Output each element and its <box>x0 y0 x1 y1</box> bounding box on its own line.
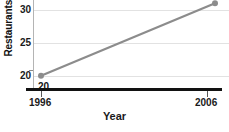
plot-area <box>33 0 229 89</box>
x-axis-spine <box>26 88 222 91</box>
y-tick-label: 25 <box>3 38 31 48</box>
y-axis-spine <box>33 0 34 90</box>
y-tick-label: 20 <box>3 71 31 81</box>
series-restaurants <box>33 0 229 89</box>
line-chart: Restaurants (in th 20 25 30 20 31 1996 2… <box>0 0 229 132</box>
y-tick-labels: 20 25 30 <box>0 0 31 89</box>
y-tick-label: 30 <box>3 5 31 15</box>
data-point-marker <box>38 73 44 79</box>
x-tick-label: 2006 <box>195 97 217 108</box>
series-line-segment <box>41 3 215 76</box>
y-axis-minor-tick <box>29 70 33 71</box>
x-axis-title: Year <box>0 110 229 122</box>
data-point-marker <box>212 0 218 6</box>
x-tick-label: 1996 <box>29 97 51 108</box>
bottom-caption-strip <box>6 127 206 132</box>
